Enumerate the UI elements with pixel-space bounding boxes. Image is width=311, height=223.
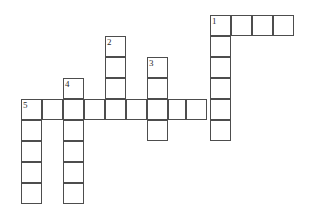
crossword-cell[interactable] (84, 99, 105, 120)
crossword-cell[interactable]: 4 (63, 78, 84, 99)
crossword-cell[interactable] (147, 78, 168, 99)
crossword-cell[interactable] (126, 99, 147, 120)
crossword-cell[interactable] (273, 15, 294, 36)
cell-number-1: 1 (212, 16, 217, 26)
crossword-cell[interactable] (21, 141, 42, 162)
crossword-cell[interactable] (231, 15, 252, 36)
crossword-cell[interactable] (168, 99, 186, 120)
crossword-grid[interactable]: 12345 (0, 0, 311, 223)
crossword-cell[interactable] (210, 36, 231, 57)
crossword-cell[interactable]: 3 (147, 57, 168, 78)
crossword-cell[interactable] (147, 120, 168, 141)
crossword-cell[interactable] (147, 99, 168, 120)
crossword-cell[interactable] (21, 120, 42, 141)
crossword-cell[interactable] (186, 99, 207, 120)
cell-number-5: 5 (23, 100, 28, 110)
crossword-cell[interactable]: 1 (210, 15, 231, 36)
crossword-cell[interactable] (105, 78, 126, 99)
crossword-cell[interactable] (42, 99, 63, 120)
crossword-cell[interactable] (21, 183, 42, 204)
cell-number-2: 2 (107, 37, 112, 47)
crossword-cell[interactable] (210, 99, 231, 120)
crossword-cell[interactable] (105, 99, 126, 120)
crossword-puzzle: 12345 (0, 0, 311, 223)
crossword-cell[interactable] (63, 141, 84, 162)
crossword-cell[interactable] (210, 78, 231, 99)
crossword-cell[interactable] (63, 183, 84, 204)
crossword-cell[interactable] (210, 120, 231, 141)
crossword-cell[interactable] (63, 120, 84, 141)
crossword-cell[interactable] (252, 15, 273, 36)
crossword-cell[interactable]: 5 (21, 99, 42, 120)
crossword-cell[interactable] (105, 57, 126, 78)
crossword-cell[interactable] (63, 99, 84, 120)
crossword-cell[interactable] (210, 57, 231, 78)
crossword-cell[interactable] (21, 162, 42, 183)
cell-number-3: 3 (149, 58, 154, 68)
cell-number-4: 4 (65, 79, 70, 89)
crossword-cell[interactable] (63, 162, 84, 183)
crossword-cell[interactable]: 2 (105, 36, 126, 57)
